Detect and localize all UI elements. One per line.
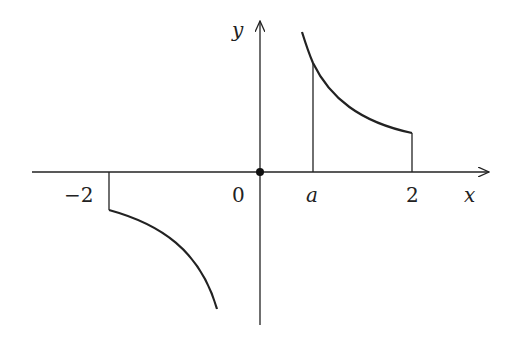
tick-label-neg2: −2 — [64, 185, 93, 205]
negative-branch-curve — [109, 210, 217, 309]
tick-label-a: a — [306, 185, 318, 205]
function-graph — [0, 0, 518, 345]
x-axis-label: x — [464, 185, 475, 205]
tick-label-2: 2 — [406, 185, 419, 205]
positive-branch-curve — [302, 32, 412, 133]
origin-dot — [256, 168, 264, 176]
y-axis-label: y — [232, 20, 243, 40]
tick-label-zero: 0 — [232, 185, 245, 205]
